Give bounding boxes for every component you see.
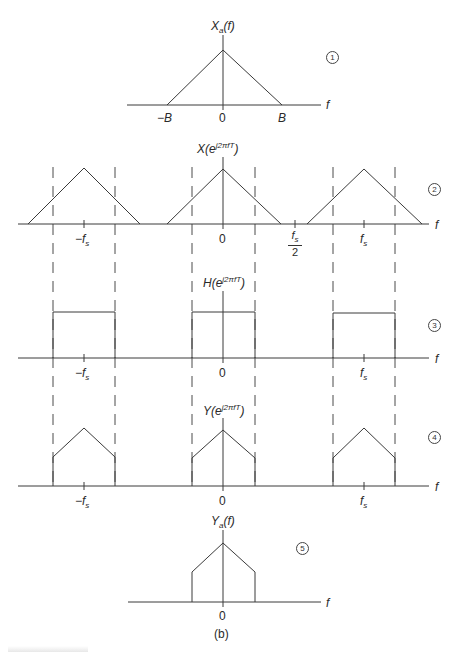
panel-4-replica-minus-fs: [53, 428, 115, 486]
panel-3-number-badge: 3: [428, 319, 441, 332]
panel-1-number-badge: 1: [326, 51, 339, 64]
panel-1-tick-zero: 0: [219, 112, 226, 124]
panel-2-title: X(ej2πfT): [197, 142, 238, 155]
sub: s: [85, 501, 89, 510]
title-main: X: [211, 19, 219, 33]
sub: s: [363, 373, 367, 382]
panel-3-title: H(ej2πfT): [203, 276, 245, 289]
minus-sign: −: [157, 111, 164, 125]
panel-3-passband-minus-fs: [53, 312, 115, 358]
panel-5-title: Ya(f): [211, 515, 235, 530]
sub: s: [85, 373, 89, 382]
panel-5-plot: [128, 530, 321, 607]
figure-drawing: [0, 0, 458, 652]
panel-4-number-badge: 4: [428, 431, 441, 444]
sub: s: [363, 501, 367, 510]
panel-1-tick-minus-b: −B: [157, 112, 172, 124]
panel-4-tick-zero: 0: [219, 495, 226, 507]
cropped-caption: [8, 646, 88, 652]
sub: s: [85, 239, 89, 248]
panel-1-triangle-spectrum: [167, 50, 282, 105]
panel-4-tick-fs: fs: [360, 495, 367, 510]
title-main: Y(e: [203, 404, 222, 418]
b-letter: B: [164, 111, 172, 125]
label: −f: [75, 366, 85, 380]
num-sub: s: [295, 235, 299, 244]
panel-3-tick-fs: fs: [360, 367, 367, 382]
panel-2-tick-half-fs: fs2: [288, 230, 302, 258]
panel-1-tick-b: B: [278, 112, 286, 124]
panel-1-axis-var: f: [326, 99, 329, 111]
title-sup: j2πfT: [216, 141, 235, 150]
title-main: Y: [211, 514, 219, 528]
panel-2-tick-fs: fs: [360, 233, 367, 248]
panel-2-tick-zero: 0: [219, 233, 226, 245]
panel-5-number-badge: 5: [296, 542, 309, 555]
panel-2-replica-minus-fs: [28, 168, 140, 224]
title-tail: (f): [223, 19, 234, 33]
panel-1-title: Xa(f): [211, 20, 235, 35]
panel-3-passband-fs: [333, 313, 395, 358]
panel-4-axis-var: f: [435, 481, 438, 493]
panel-4-plot: [18, 418, 429, 491]
panel-4-replica-fs: [333, 428, 395, 486]
fraction-denominator: 2: [288, 246, 302, 258]
title-tail: ): [240, 404, 244, 418]
panel-4-tick-minus-fs: −fs: [75, 495, 89, 510]
panel-5-tick-zero: 0: [219, 610, 226, 622]
subfigure-label: (b): [214, 628, 229, 640]
title-tail: ): [241, 276, 245, 290]
title-sup: j2πfT: [222, 403, 241, 412]
panel-3-tick-zero: 0: [219, 367, 226, 379]
fraction-numerator: fs: [288, 230, 302, 246]
title-main: X(e: [197, 142, 216, 156]
panel-2-replica-zero: [167, 169, 281, 224]
label: −f: [75, 494, 85, 508]
title-tail: ): [234, 142, 238, 156]
spectrum-figure: Xa(f) 1 f −B 0 B X(ej2πfT) 2 f −fs 0 fs2…: [0, 0, 458, 652]
panel-2-number-badge: 2: [428, 183, 441, 196]
title-sup: j2πfT: [222, 275, 241, 284]
title-tail: (f): [223, 514, 234, 528]
sub: s: [363, 239, 367, 248]
panel-3-tick-minus-fs: −fs: [75, 367, 89, 382]
panel-2-replica-fs: [307, 169, 422, 224]
panel-4-title: Y(ej2πfT): [203, 404, 244, 417]
dashed-filter-edges: [53, 167, 395, 487]
panel-1-plot: [127, 35, 321, 110]
panel-3-plot: [18, 291, 429, 363]
panel-2-plot: [18, 157, 429, 229]
panel-2-axis-var: f: [435, 219, 438, 231]
panel-5-axis-var: f: [326, 597, 329, 609]
title-main: H(e: [203, 276, 222, 290]
label: −f: [75, 232, 85, 246]
panel-2-tick-minus-fs: −fs: [75, 233, 89, 248]
panel-3-axis-var: f: [435, 353, 438, 365]
